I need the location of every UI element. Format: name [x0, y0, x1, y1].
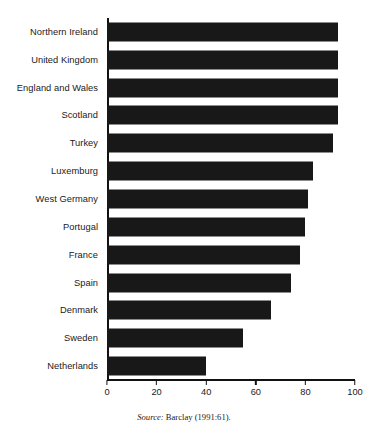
category-label: England and Wales [17, 83, 98, 93]
category-label: Spain [74, 278, 98, 288]
category-label: Northern Ireland [30, 27, 98, 37]
bar-chart-figure: Northern IrelandUnited KingdomEngland an… [0, 0, 368, 440]
bar-row: Sweden [107, 324, 355, 352]
category-label: Netherlands [47, 361, 98, 371]
bar [107, 78, 338, 97]
x-tick: 40 [201, 380, 211, 397]
bar [107, 301, 271, 320]
category-label: West Germany [36, 194, 98, 204]
x-tick: 60 [251, 380, 261, 397]
x-tick-mark [106, 380, 107, 385]
bar-row: France [107, 241, 355, 269]
source-citation: Barclay (1991:61). [166, 412, 231, 422]
bar-row: Scotland [107, 102, 355, 130]
bar [107, 245, 300, 264]
x-tick: 20 [151, 380, 161, 397]
bar-row: West Germany [107, 185, 355, 213]
x-tick: 100 [347, 380, 363, 397]
category-label: Turkey [70, 138, 98, 148]
x-tick-label: 60 [251, 387, 261, 397]
bar-row: England and Wales [107, 74, 355, 102]
plot-area: Northern IrelandUnited KingdomEngland an… [107, 18, 355, 380]
x-tick-label: 40 [201, 387, 211, 397]
x-tick: 80 [300, 380, 310, 397]
x-tick-mark [156, 380, 157, 385]
bar-row: Luxemburg [107, 157, 355, 185]
x-tick-mark [354, 380, 355, 385]
x-tick-mark [305, 380, 306, 385]
category-label: Portugal [63, 222, 98, 232]
category-label: Denmark [60, 305, 98, 315]
source-label: Source: [137, 412, 163, 422]
category-label: Scotland [61, 110, 98, 120]
bar [107, 273, 291, 292]
source-caption: Source: Barclay (1991:61). [0, 412, 368, 422]
x-axis-ticks: 020406080100 [107, 380, 355, 406]
category-label: France [69, 250, 98, 260]
bar [107, 357, 206, 376]
bar-row: Netherlands [107, 352, 355, 380]
bar [107, 134, 333, 153]
bar [107, 329, 243, 348]
bar [107, 217, 305, 236]
bar-row: Portugal [107, 213, 355, 241]
x-tick-mark [255, 380, 256, 385]
x-tick: 0 [104, 380, 109, 397]
category-label: United Kingdom [31, 55, 98, 65]
bar [107, 22, 338, 41]
bar-row: Denmark [107, 296, 355, 324]
category-label: Luxemburg [51, 166, 98, 176]
bar [107, 106, 338, 125]
bar-rows: Northern IrelandUnited KingdomEngland an… [107, 18, 355, 380]
bar-row: Northern Ireland [107, 18, 355, 46]
bar [107, 189, 308, 208]
bar-row: Spain [107, 269, 355, 297]
x-tick-label: 20 [151, 387, 161, 397]
category-label: Sweden [64, 333, 98, 343]
x-tick-label: 100 [347, 387, 363, 397]
bar-row: Turkey [107, 129, 355, 157]
bar-row: United Kingdom [107, 46, 355, 74]
bar [107, 162, 313, 181]
x-tick-label: 0 [104, 387, 109, 397]
x-tick-label: 80 [300, 387, 310, 397]
x-tick-mark [206, 380, 207, 385]
bar [107, 50, 338, 69]
